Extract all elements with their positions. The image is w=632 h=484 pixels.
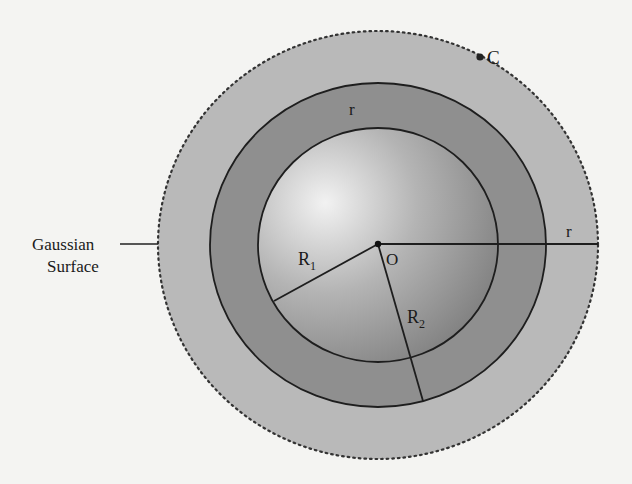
label-center-o: O xyxy=(386,250,398,269)
label-r2-main: R xyxy=(407,307,419,327)
label-r1-sub: 1 xyxy=(310,259,316,273)
label-r2-sub: 2 xyxy=(419,317,425,331)
label-r-radius: r xyxy=(566,222,572,241)
label-r1-main: R xyxy=(298,249,310,269)
label-point-c: C xyxy=(487,47,500,68)
label-r-shell: r xyxy=(349,100,355,119)
gaussian-surface-diagram: C O R1 R2 r r Gaussian Surface xyxy=(0,0,632,484)
point-c-marker xyxy=(476,53,483,60)
label-gaussian-line2: Surface xyxy=(47,257,99,276)
label-gaussian-line1: Gaussian xyxy=(32,235,95,254)
center-point xyxy=(375,241,381,247)
